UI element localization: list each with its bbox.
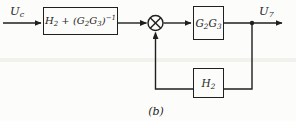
controller-block: H2 + (G2G3)−1 <box>43 7 118 35</box>
plant-block-label: G2G3 <box>195 18 221 29</box>
output-signal-label: U7 <box>259 6 274 18</box>
branch-point-dot <box>250 21 254 25</box>
feedback-wire-right <box>224 23 252 89</box>
block-diagram: H2 + (G2G3)−1 G2G3 H2 Uc U7 (b) <box>0 0 296 121</box>
feedback-block: H2 <box>193 68 224 98</box>
feedback-wire-left-arrow <box>156 33 194 90</box>
figure-caption: (b) <box>130 105 182 118</box>
controller-block-label: H2 + (G2G3)−1 <box>45 16 116 26</box>
feedback-block-label: H2 <box>202 78 216 89</box>
multiply-junction-icon <box>148 16 163 31</box>
input-signal-label: Uc <box>10 6 24 18</box>
plant-block: G2G3 <box>193 6 224 40</box>
